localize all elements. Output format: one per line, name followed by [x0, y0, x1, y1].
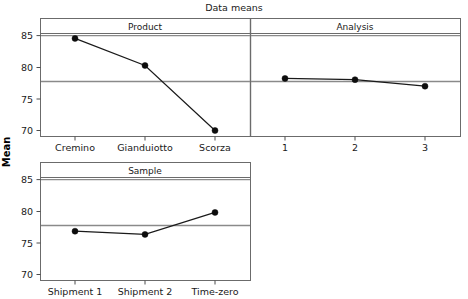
ytick-label-70-top: 70	[21, 125, 33, 136]
panel-title-sample: Sample	[128, 166, 162, 176]
y-axis-bottom-row: 85 80 75 70	[21, 174, 41, 280]
panel-product: Product Cremino Gianduiotto Scorza	[41, 22, 250, 153]
xtick-label-shipment-2: Shipment 2	[118, 286, 173, 297]
xtick-label-analysis-3: 3	[422, 142, 428, 153]
xtick-label-shipment-1: Shipment 1	[48, 286, 103, 297]
data-point-analysis-2	[352, 77, 358, 83]
data-point-analysis-3	[422, 83, 428, 89]
panel-sample: Sample Shipment 1 Shipment 2 Time-zero	[41, 166, 250, 297]
panel-title-analysis: Analysis	[336, 22, 373, 32]
data-point-shipment-2	[142, 231, 148, 237]
xtick-label-time-zero: Time-zero	[190, 286, 238, 297]
xtick-label-gianduiotto: Gianduiotto	[117, 142, 173, 153]
series-line-product	[75, 38, 215, 130]
xtick-label-analysis-1: 1	[282, 142, 288, 153]
y-axis-title: Mean	[1, 137, 12, 168]
ytick-label-75-bottom: 75	[21, 238, 33, 249]
data-point-shipment-1	[72, 228, 78, 234]
panel-title-product: Product	[128, 22, 163, 32]
data-point-gianduiotto	[142, 63, 148, 69]
ytick-label-85-top: 85	[21, 30, 33, 41]
xtick-label-cremino: Cremino	[55, 142, 95, 153]
data-means-figure: Data means Mean Product	[0, 0, 468, 299]
series-line-sample	[75, 212, 215, 234]
data-point-time-zero	[212, 209, 218, 215]
data-point-scorza	[212, 128, 218, 134]
panel-analysis: Analysis 1 2 3	[251, 22, 460, 153]
xtick-label-scorza: Scorza	[199, 142, 231, 153]
y-axis-top-row: 85 80 75 70	[21, 30, 41, 136]
xtick-label-analysis-2: 2	[352, 142, 358, 153]
ytick-label-85-bottom: 85	[21, 174, 33, 185]
data-point-analysis-1	[282, 75, 288, 81]
ytick-label-80-bottom: 80	[21, 206, 33, 217]
ytick-label-80-top: 80	[21, 62, 33, 73]
ytick-label-70-bottom: 70	[21, 269, 33, 280]
bottom-row-panels: Sample Shipment 1 Shipment 2 Time-zero	[21, 163, 251, 298]
chart-title: Data means	[205, 2, 263, 13]
top-row-panels: Product Cremino Gianduiotto Scorza	[21, 19, 461, 154]
data-point-cremino	[72, 35, 78, 41]
ytick-label-75-top: 75	[21, 94, 33, 105]
